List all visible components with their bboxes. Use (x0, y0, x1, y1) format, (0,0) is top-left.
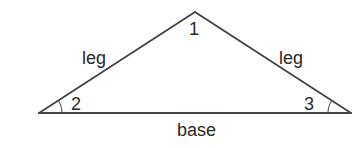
angle-2-label: 2 (71, 94, 81, 114)
right-leg-line (195, 12, 351, 113)
right-leg-label: leg (279, 48, 303, 68)
base-label: base (177, 120, 216, 140)
left-leg-label: leg (82, 48, 106, 68)
isosceles-triangle-diagram: leg leg base 1 2 3 (0, 0, 362, 148)
angle-3-arc (328, 101, 332, 114)
angle-1-label: 1 (189, 19, 199, 39)
angle-2-arc (58, 101, 62, 114)
left-leg-line (39, 12, 195, 113)
angle-3-label: 3 (304, 94, 314, 114)
